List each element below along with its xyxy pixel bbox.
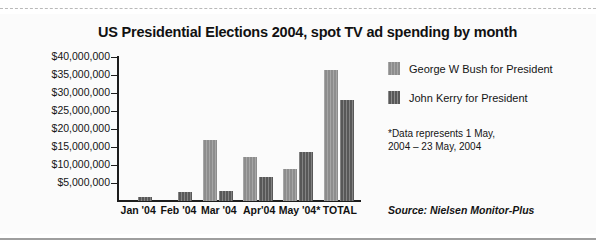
top-dashed-rule	[0, 8, 596, 9]
legend-label-kerry: John Kerry for President	[409, 92, 528, 104]
y-axis-tick	[111, 57, 118, 58]
bar-bush	[243, 157, 257, 201]
y-axis-tick	[111, 183, 118, 184]
bar-kerry	[138, 197, 152, 201]
bar-kerry	[299, 152, 313, 201]
bar-bush	[283, 169, 297, 201]
y-axis-tick-label: $15,000,000	[26, 140, 110, 152]
bar-group	[324, 57, 358, 201]
bar-bush	[324, 70, 338, 201]
y-axis-tick	[111, 75, 118, 76]
bar-kerry	[259, 177, 273, 201]
y-axis-tick-label: $5,000,000	[26, 176, 110, 188]
data-note-line-1: *Data represents 1 May,	[388, 127, 573, 140]
y-axis-tick-label: $40,000,000	[26, 50, 110, 62]
legend-item-bush: George W Bush for President	[388, 62, 588, 75]
legend-swatch-bush	[388, 62, 400, 75]
source-credit: Source: Nielsen Monitor-Plus	[388, 204, 588, 216]
chart-title: US Presidential Elections 2004, spot TV …	[98, 24, 498, 40]
y-axis-tick	[111, 129, 118, 130]
chart-legend: George W Bush for President John Kerry f…	[388, 62, 588, 120]
bar-kerry	[178, 192, 192, 201]
bar-group	[243, 57, 277, 201]
y-axis-labels: $40,000,000$35,000,000$30,000,000$25,000…	[18, 14, 110, 234]
bottom-rule	[0, 238, 596, 240]
chart-figure: US Presidential Elections 2004, spot TV …	[0, 0, 596, 249]
y-axis-tick	[111, 93, 118, 94]
bar-kerry	[219, 191, 233, 201]
legend-swatch-kerry	[388, 91, 400, 104]
x-axis-tick-label: TOTAL	[316, 204, 364, 216]
bar-group	[283, 57, 317, 201]
bar-bush	[203, 140, 217, 201]
legend-item-kerry: John Kerry for President	[388, 91, 588, 104]
data-note-line-2: 2004 – 23 May, 2004	[388, 140, 573, 153]
figure-canvas: US Presidential Elections 2004, spot TV …	[0, 14, 596, 234]
data-note: *Data represents 1 May, 2004 – 23 May, 2…	[388, 127, 573, 153]
y-axis-tick	[111, 147, 118, 148]
bar-groups	[118, 57, 360, 201]
bar-group	[162, 57, 196, 201]
y-axis-tick	[111, 111, 118, 112]
bar-group	[203, 57, 237, 201]
y-axis-tick-label: $25,000,000	[26, 104, 110, 116]
bar-kerry	[340, 100, 354, 201]
bar-group	[122, 57, 156, 201]
y-axis-tick-label: $20,000,000	[26, 122, 110, 134]
y-axis-tick-label: $10,000,000	[26, 158, 110, 170]
y-axis-tick-label: $30,000,000	[26, 86, 110, 98]
legend-label-bush: George W Bush for President	[409, 63, 553, 75]
y-axis-tick	[111, 165, 118, 166]
y-axis-tick-label: $35,000,000	[26, 68, 110, 80]
